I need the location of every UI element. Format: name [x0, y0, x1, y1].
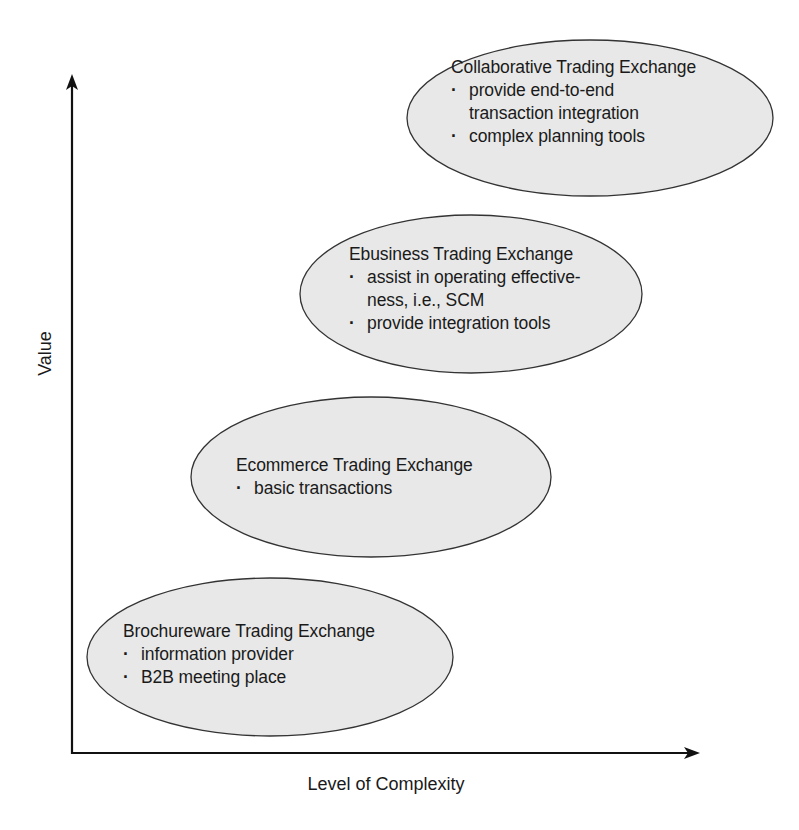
- bullet-item: ·provide end-to-end: [451, 79, 696, 102]
- stage-ebusiness: Ebusiness Trading Exchange ·assist in op…: [349, 243, 581, 335]
- stage-title: Collaborative Trading Exchange: [451, 56, 696, 79]
- bullet-icon: ·: [451, 79, 469, 102]
- x-axis: [71, 747, 700, 759]
- bullet-item-continued: ness, i.e., SCM: [349, 289, 581, 312]
- bullet-icon: ·: [349, 312, 367, 335]
- bullet-item: ·provide integration tools: [349, 312, 581, 335]
- bullet-item: ·assist in operating effective-: [349, 266, 581, 289]
- stage-title: Ebusiness Trading Exchange: [349, 243, 581, 266]
- stage-ecommerce: Ecommerce Trading Exchange ·basic transa…: [236, 454, 473, 500]
- stage-title: Brochureware Trading Exchange: [123, 620, 375, 643]
- x-axis-label: Level of Complexity: [286, 774, 486, 795]
- bullet-icon: ·: [349, 266, 367, 289]
- stage-brochureware: Brochureware Trading Exchange ·informati…: [123, 620, 375, 689]
- bullet-item: ·basic transactions: [236, 477, 473, 500]
- stage-title: Ecommerce Trading Exchange: [236, 454, 473, 477]
- bullet-icon: ·: [123, 666, 141, 689]
- bullet-item: ·complex planning tools: [451, 125, 696, 148]
- bullet-icon: ·: [236, 477, 254, 500]
- stage-collaborative: Collaborative Trading Exchange ·provide …: [451, 56, 696, 148]
- bullet-item-continued: transaction integration: [451, 102, 696, 125]
- y-axis: [66, 74, 78, 754]
- bullet-item: ·B2B meeting place: [123, 666, 375, 689]
- bullet-icon: ·: [123, 643, 141, 666]
- bullet-item: ·information provider: [123, 643, 375, 666]
- bullet-icon: ·: [451, 125, 469, 148]
- y-axis-label: Value: [35, 329, 56, 379]
